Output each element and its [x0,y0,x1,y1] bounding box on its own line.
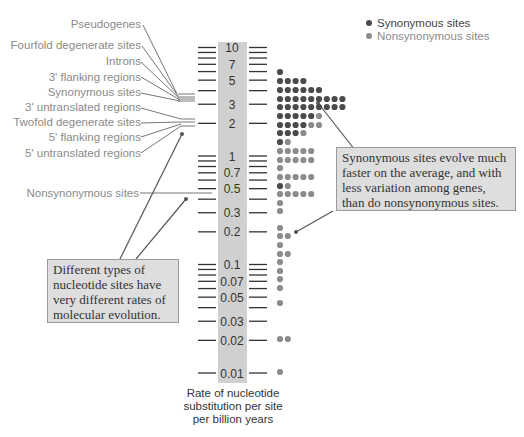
nonsynonymous-dot [293,174,299,180]
synonymous-dot [277,139,283,145]
synonymous-dot [285,87,291,93]
synonymous-dot [324,96,330,102]
legend-synonymous: Synonymous sites [377,17,471,29]
nonsynonymous-dot [277,242,283,248]
nonsynonymous-dot [285,148,291,154]
synonymous-dot [285,96,291,102]
synonymous-dot [277,69,283,75]
label-3-utr: 3' untranslated regions [25,101,141,113]
tick-label: 2 [229,117,236,131]
pointer-ends [180,101,320,234]
nonsynonymous-dot [277,174,283,180]
synonymous-dot [300,104,306,110]
nonsynonymous-dot [300,174,306,180]
nonsynonymous-dot [300,191,306,197]
tick-label: 0.5 [224,182,241,196]
label-pseudogenes: Pseudogenes [71,18,142,30]
tick-label: 0.05 [220,291,244,305]
synonymous-dot [277,113,283,119]
nonsynonymous-dot [285,174,291,180]
rate-diagram: 10753210.70.50.30.20.10.070.050.030.020.… [0,0,524,437]
nonsynonymous-dot [293,191,299,197]
svg-text:substitution per site: substitution per site [183,400,282,412]
nonsynonymous-dot [277,208,283,214]
label-twofold: Twofold degenerate sites [13,116,141,128]
nonsynonymous-dot [285,139,291,145]
nonsynonymous-dot [277,285,283,291]
synonymous-dot [316,104,322,110]
nonsynonymous-dot [277,148,283,154]
label-synonymous: Synonymous sites [48,86,142,98]
nonsynonymous-dot [277,259,283,265]
synonymous-dot [293,122,299,128]
tick-label: 0.07 [220,275,244,289]
nonsynonymous-dot [277,225,283,231]
nonsynonymous-dot [308,174,314,180]
svg-text:per billion years: per billion years [193,413,274,425]
nonsynonymous-dot [316,122,322,128]
nonsynonymous-dot [277,300,283,306]
synonymous-dot [308,87,314,93]
nonsynonymous-dot [300,148,306,154]
synonymous-dot [316,96,322,102]
tick-label: 0.03 [220,315,244,329]
synonymous-dot [277,183,283,189]
synonymous-dot [308,104,314,110]
label-5-utr: 5' untranslated regions [25,147,141,159]
label-leaders [140,25,212,193]
nonsynonymous-dot [308,191,314,197]
synonymous-dot [293,78,299,84]
synonymous-dot [277,122,283,128]
nonsynonymous-dot [293,148,299,154]
synonymous-dot [332,96,338,102]
tick-label: 7 [229,58,236,72]
synonymous-dot [277,87,283,93]
synonymous-dot [285,78,291,84]
tick-label: 0.1 [224,258,241,272]
nonsynonymous-dot [277,369,283,375]
tick-label: 5 [229,74,236,88]
synonymous-dot [285,104,291,110]
nonsynonymous-dot [277,157,283,163]
tick-label: 3 [229,98,236,112]
nonsynonymous-dot [285,191,291,197]
nonsynonymous-dot [277,200,283,206]
callout-site-types: Different types of nucleotide sites have… [47,259,179,323]
nonsynonymous-dot [285,336,291,342]
legend-synonymous-dot-icon [366,20,372,26]
synonymous-dot [316,87,322,93]
nonsynonymous-dot [277,276,283,282]
nonsynonymous-dot [277,336,283,342]
synonymous-dot [277,96,283,102]
nonsynonymous-dot [285,183,291,189]
legend-nonsynonymous-dot-icon [366,33,372,39]
label-nonsynonymous: Nonsynonymous sites [27,187,140,199]
nonsynonymous-dot [277,251,283,257]
nonsynonymous-dot [308,148,314,154]
nonsynonymous-dot [277,191,283,197]
nonsynonymous-dot [285,233,291,239]
synonymous-dot [285,130,291,136]
synonymous-dot [293,130,299,136]
synonymous-dot [308,96,314,102]
nonsynonymous-dot [277,268,283,274]
synonymous-dot [339,96,345,102]
tick-label: 1 [229,150,236,164]
synonymous-dot [300,87,306,93]
synonymous-dot [285,122,291,128]
tick-label: 0.01 [220,367,244,381]
legend-nonsynonymous: Nonsynonymous sites [377,30,490,42]
synonymous-dot [293,96,299,102]
tick-label: 0.3 [224,206,241,220]
tick-label: 0.7 [224,166,241,180]
synonymous-dot [300,96,306,102]
tick-label: 10 [225,41,239,55]
legend: Synonymous sites Nonsynonymous sites [366,17,490,42]
nonsynonymous-dot [308,157,314,163]
nonsynonymous-dot [293,157,299,163]
label-fourfold: Fourfold degenerate sites [11,39,142,51]
axis-title: Rate of nucleotide substitution per site… [183,387,282,425]
nonsynonymous-dot [277,233,283,239]
synonymous-dot [277,130,283,136]
site-labels: Pseudogenes Fourfold degenerate sites In… [11,18,142,199]
